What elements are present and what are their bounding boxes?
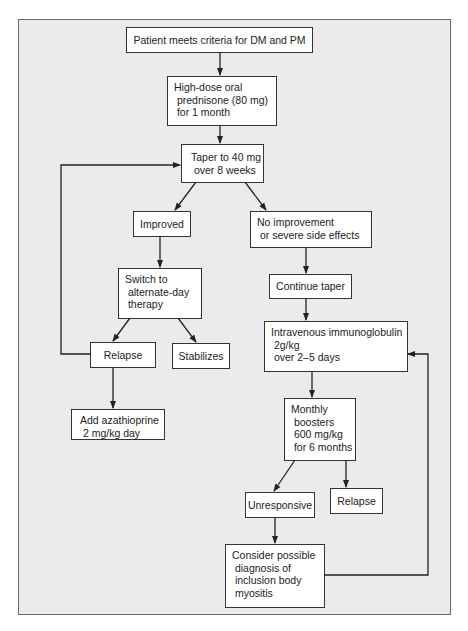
node-unresponsive: Unresponsive bbox=[245, 492, 315, 518]
node-stabilizes: Stabilizes bbox=[172, 343, 230, 369]
node-monthly-boosters: Monthly boosters 600 mg/kg for 6 months bbox=[284, 398, 356, 461]
node-relapse-right: Relapse bbox=[330, 488, 383, 514]
node-ivig: Intravenous immunoglobulin 2g/kg over 2–… bbox=[264, 321, 408, 372]
node-taper: Taper to 40 mg over 8 weeks bbox=[181, 144, 264, 183]
node-criteria: Patient meets criteria for DM and PM bbox=[126, 27, 313, 53]
node-switch-alternate-day: Switch to alternate-day therapy bbox=[118, 268, 202, 319]
node-no-improvement: No improvement or severe side effects bbox=[250, 211, 372, 248]
node-continue-taper: Continue taper bbox=[269, 274, 352, 299]
node-relapse-left: Relapse bbox=[90, 342, 156, 368]
node-azathioprine: Add azathioprine 2 mg/kg day bbox=[71, 409, 165, 440]
node-consider-ibm: Consider possible diagnosis of inclusion… bbox=[225, 544, 325, 608]
node-prednisone: High-dose oral prednisone (80 mg) for 1 … bbox=[167, 76, 277, 126]
node-improved: Improved bbox=[133, 211, 191, 237]
